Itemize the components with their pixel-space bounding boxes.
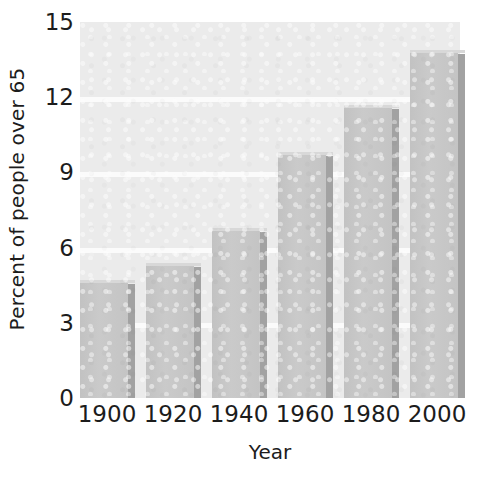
bar-top-highlight: [80, 280, 135, 283]
x-tick-label: 1900: [78, 402, 137, 427]
x-tick-label: 1980: [342, 402, 401, 427]
y-tick-label: 3: [2, 311, 74, 334]
bar-face: [278, 152, 326, 398]
plot-area: [80, 22, 460, 398]
gridline-12: [80, 97, 460, 102]
bar-side-shadow: [392, 109, 399, 398]
bar-side-shadow: [326, 156, 333, 398]
bar-side-shadow: [128, 284, 135, 398]
bar-face: [344, 105, 392, 398]
bar-top-highlight: [212, 228, 267, 231]
y-tick-label: 0: [2, 387, 74, 410]
bar-1920[interactable]: [146, 263, 194, 398]
bar-2000[interactable]: [410, 50, 458, 398]
gridline-9: [80, 172, 460, 177]
bar-side-shadow: [458, 54, 465, 398]
bar-side-shadow: [194, 267, 201, 398]
bar-top-highlight: [410, 50, 465, 53]
bar-1960[interactable]: [278, 152, 326, 398]
x-tick-label: 1960: [276, 402, 335, 427]
bar-face: [146, 263, 194, 398]
y-tick-label: 12: [2, 86, 74, 109]
bar-1940[interactable]: [212, 228, 260, 398]
bar-top-highlight: [278, 152, 333, 155]
bar-top-highlight: [146, 263, 201, 266]
bar-side-shadow: [260, 232, 267, 398]
y-tick-label: 9: [2, 161, 74, 184]
bar-face: [212, 228, 260, 398]
bar-top-highlight: [344, 105, 399, 108]
bar-face: [410, 50, 458, 398]
x-tick-label: 2000: [408, 402, 467, 427]
gridline-3: [80, 323, 460, 328]
x-tick-label: 1940: [210, 402, 269, 427]
x-axis-title: Year: [80, 440, 460, 464]
bar-1900[interactable]: [80, 280, 128, 398]
x-tick-label: 1920: [144, 402, 203, 427]
x-axis-tick-labels: 1900 1920 1940 1960 1980 2000: [80, 402, 470, 434]
bar-face: [80, 280, 128, 398]
y-tick-label: 15: [2, 11, 74, 34]
bar-1980[interactable]: [344, 105, 392, 398]
y-tick-label: 6: [2, 236, 74, 259]
bar-chart-figure: Percent of people over 65 15 12 9 6 3 0: [0, 0, 490, 485]
gridline-6: [80, 248, 460, 253]
y-axis-tick-labels: 15 12 9 6 3 0: [0, 0, 74, 485]
